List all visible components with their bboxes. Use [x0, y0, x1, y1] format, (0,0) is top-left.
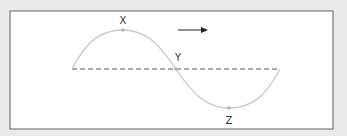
diagram-panel — [10, 11, 333, 129]
crossing-point — [174, 67, 178, 71]
label-y: Y — [174, 52, 182, 63]
crest-point — [121, 28, 125, 32]
wave-diagram: X Y Z — [0, 0, 347, 136]
trough-point — [227, 106, 231, 110]
label-x: X — [120, 15, 127, 26]
label-z: Z — [226, 115, 233, 126]
